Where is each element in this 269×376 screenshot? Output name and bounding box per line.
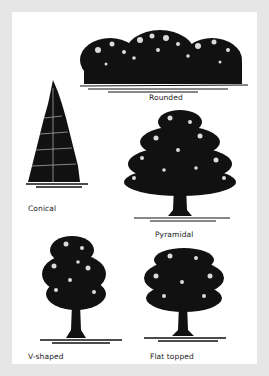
rounded-tree-illustration: [78, 28, 250, 98]
v-shaped-tree-illustration: [26, 234, 126, 352]
flat-topped-tree-illustration: [134, 246, 234, 352]
label-v-shaped: V-shaped: [28, 352, 64, 361]
illustration-panel: Rounded Conical: [12, 12, 257, 364]
label-conical: Conical: [28, 204, 56, 213]
conical-tree-illustration: [22, 78, 92, 198]
label-pyramidal: Pyramidal: [155, 230, 193, 239]
label-rounded: Rounded: [149, 93, 183, 102]
label-flat-topped: Flat topped: [150, 352, 194, 361]
pyramidal-tree-illustration: [120, 108, 240, 230]
